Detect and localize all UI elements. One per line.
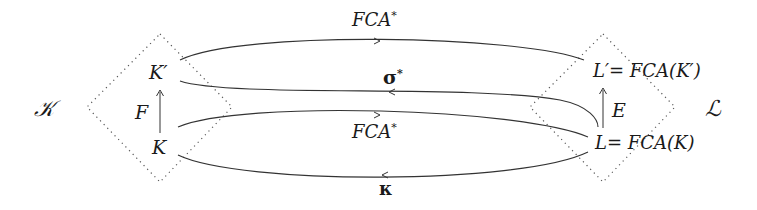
edge-label-fca-bottom: FCA* [352,122,397,141]
node-k: K [152,138,166,157]
label-f: F [135,103,148,122]
edge-label-sup: * [391,121,397,134]
node-l-prime: L′= FCA(K′) [593,62,701,80]
edge-label-text: κ [379,178,393,199]
edge-label-text: σ [383,66,397,88]
edge-fca-top [180,39,584,60]
label-e: E [612,101,626,120]
edge-label-text: FCA [352,121,391,142]
diagram-canvas: 𝒦 ℒ K′ K F L′= FCA(K′) L= FCA(K) E FCA* … [0,0,757,210]
edge-label-sup: * [391,9,397,22]
left-set-name: 𝒦 [34,98,54,120]
edge-label-sigma: σ* [383,68,403,87]
edge-label-kappa: κ [379,180,393,198]
right-set-name: ℒ [705,98,721,120]
edge-kappa [178,152,588,177]
node-k-prime: K′ [149,63,168,82]
edge-label-text: FCA [352,9,391,30]
edge-label-fca-top: FCA* [352,10,397,29]
node-l: L= FCA(K) [595,134,695,152]
edge-label-sup: * [397,67,403,80]
